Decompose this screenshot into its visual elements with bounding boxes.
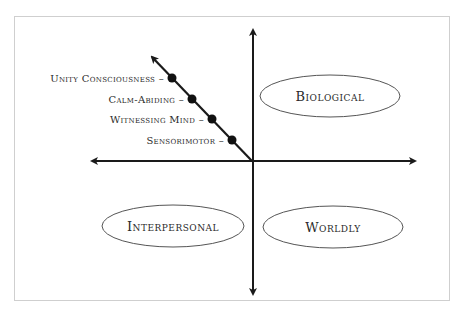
stage-dot-calm <box>188 95 197 104</box>
quadrant-diagram: Unity Consciousness – Calm-Abiding – Wit… <box>0 0 466 315</box>
stage-label-sensorimotor: Sensorimotor – <box>146 135 224 146</box>
stage-dot-sensorimotor <box>228 136 237 145</box>
worldly-label: Worldly <box>305 220 361 235</box>
stage-label-calm: Calm-Abiding – <box>108 94 184 105</box>
stage-label-unity: Unity Consciousness – <box>50 73 164 84</box>
biological-label: Biological <box>296 89 365 104</box>
stage-dot-unity <box>168 74 177 83</box>
stage-dot-witnessing <box>208 115 217 124</box>
interpersonal-label: Interpersonal <box>127 219 219 234</box>
stage-label-witnessing: Witnessing Mind – <box>110 114 204 125</box>
